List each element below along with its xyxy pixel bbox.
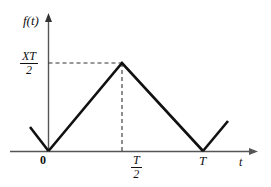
x-axis-arrowhead <box>249 148 258 155</box>
origin-tick-label: 0 <box>40 154 46 166</box>
x-axis-tick-label-half-period: T 2 <box>131 154 142 181</box>
fraction-denominator: 2 <box>20 64 38 76</box>
y-axis-tick-label-amplitude: XT 2 <box>20 50 38 77</box>
fraction-numerator: T <box>131 154 142 166</box>
fraction-numerator: XT <box>20 50 38 62</box>
x-axis-tick-label-period: T <box>199 154 206 167</box>
fraction-denominator: 2 <box>131 168 142 180</box>
waveform-main-triangle <box>49 63 204 151</box>
waveform-leading-segment <box>30 127 49 151</box>
y-axis-arrowhead <box>45 13 52 22</box>
x-axis-label: t <box>239 156 242 168</box>
triangular-waveform-figure: f(t) t 0 XT 2 T 2 T <box>0 0 271 187</box>
waveform-trailing-segment <box>203 121 228 151</box>
y-axis-label: f(t) <box>23 14 39 27</box>
